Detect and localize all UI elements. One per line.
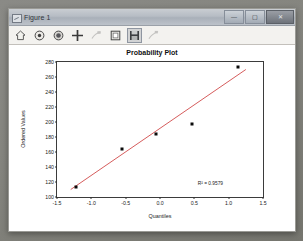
edit-curve-icon [148, 30, 159, 41]
y-tick-mark [55, 122, 57, 123]
y-tick-mark [55, 107, 57, 108]
y-tick-mark [55, 92, 57, 93]
plot-series-layer [57, 62, 263, 197]
regression-line [71, 70, 246, 190]
save-button[interactable] [127, 28, 142, 43]
figure-window: Figure 1 — ▢ ✕ [8, 8, 296, 232]
data-point [74, 185, 77, 188]
x-tick-mark [263, 197, 264, 199]
y-tick-label: 180 [45, 134, 54, 140]
pan-button[interactable] [70, 28, 85, 43]
maximize-glyph: ▢ [252, 14, 258, 20]
zoom-button[interactable] [89, 28, 104, 43]
y-tick-mark [55, 77, 57, 78]
minimize-button[interactable]: — [224, 10, 244, 24]
y-axis-label: Ordered Values [20, 110, 26, 147]
window-titlebar[interactable]: Figure 1 — ▢ ✕ [9, 9, 295, 26]
x-axis-label: Quantiles [149, 213, 172, 219]
x-tick-label: 1.5 [259, 200, 266, 206]
forward-button[interactable] [51, 28, 66, 43]
figure-canvas[interactable]: Probability Plot Ordered Values Quantile… [9, 45, 295, 231]
edit-axis-button[interactable] [146, 28, 161, 43]
y-tick-label: 120 [45, 179, 54, 185]
y-tick-label: 240 [45, 89, 54, 95]
window-title: Figure 1 [24, 14, 223, 21]
y-tick-mark [55, 137, 57, 138]
home-icon [15, 30, 26, 41]
forward-arrow-icon [53, 30, 64, 41]
x-tick-mark [228, 197, 229, 199]
x-tick-mark [194, 197, 195, 199]
y-tick-mark [55, 182, 57, 183]
data-point [237, 65, 240, 68]
subplots-icon [110, 30, 121, 41]
y-tick-label: 260 [45, 74, 54, 80]
y-tick-label: 220 [45, 104, 54, 110]
r-squared-annotation: R² = 0.9579 [198, 181, 223, 186]
x-tick-label: -0.5 [121, 200, 130, 206]
y-tick-label: 160 [45, 149, 54, 155]
back-arrow-icon [34, 30, 45, 41]
y-tick-label: 140 [45, 164, 54, 170]
x-tick-mark [125, 197, 126, 199]
x-tick-label: -1.5 [53, 200, 62, 206]
maximize-button[interactable]: ▢ [245, 10, 265, 24]
back-button[interactable] [32, 28, 47, 43]
y-tick-mark [55, 152, 57, 153]
plot-title: Probability Plot [9, 49, 295, 56]
x-tick-label: 0.5 [191, 200, 198, 206]
close-button[interactable]: ✕ [266, 10, 294, 24]
x-tick-mark [57, 197, 58, 199]
save-disk-icon [129, 30, 140, 41]
figure-window-icon [12, 13, 21, 22]
x-tick-mark [160, 197, 161, 199]
data-point [154, 133, 157, 136]
zoom-rect-icon [91, 30, 102, 41]
configure-subplots-button[interactable] [108, 28, 123, 43]
y-tick-label: 280 [45, 59, 54, 65]
desktop-background: Figure 1 — ▢ ✕ [0, 0, 303, 241]
plot-axes: 100120140160180200220240260280-1.5-1.0-0… [56, 61, 264, 198]
data-point [120, 148, 123, 151]
x-tick-mark [91, 197, 92, 199]
y-tick-label: 200 [45, 119, 54, 125]
minimize-glyph: — [231, 14, 237, 20]
x-tick-label: 1.0 [225, 200, 232, 206]
y-tick-mark [55, 62, 57, 63]
y-tick-mark [55, 167, 57, 168]
matplotlib-navigation-toolbar [9, 26, 295, 45]
home-button[interactable] [13, 28, 28, 43]
x-tick-label: 0.0 [156, 200, 163, 206]
pan-move-icon [72, 30, 83, 41]
x-tick-label: -1.0 [87, 200, 96, 206]
close-glyph: ✕ [278, 14, 283, 20]
data-point [190, 123, 193, 126]
